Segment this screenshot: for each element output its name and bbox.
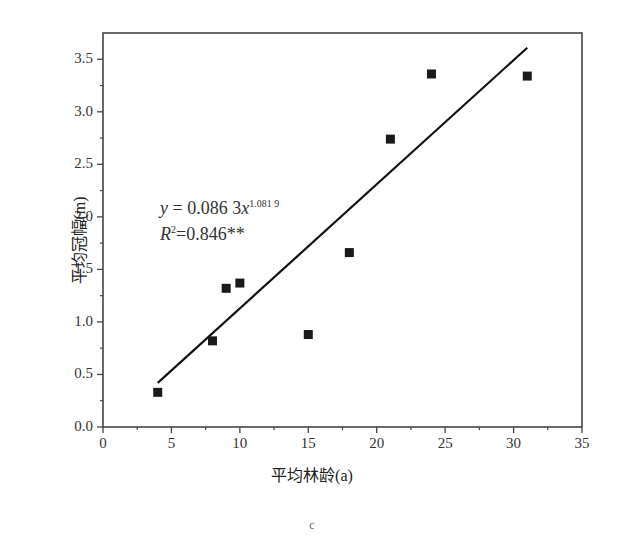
data-point-square [222,284,231,293]
y-tick-label: 0.5 [53,365,93,382]
data-point-square [304,330,313,339]
data-point-square [427,69,436,78]
x-tick-label: 20 [362,435,392,452]
equation-exponent: 1.081 9 [249,198,279,209]
y-tick-label: 3.5 [53,50,93,67]
r2-label: R [160,224,171,244]
r-squared: R2=0.846** [160,224,245,245]
r2-value: =0.846** [176,224,245,244]
x-axis-label: 平均林龄(a) [0,462,624,486]
axis-ticks [97,59,582,433]
data-point-square [208,336,217,345]
y-tick-label: 0.0 [53,418,93,435]
data-point-square [386,135,395,144]
x-tick-label: 35 [567,435,597,452]
x-tick-label: 30 [499,435,529,452]
y-tick-label: 1.0 [53,313,93,330]
y-axis-label: 平均冠幅(m) [66,180,90,300]
x-tick-label: 0 [88,435,118,452]
equation-y: y [160,198,168,218]
equation-x: x [241,198,249,218]
equation-body: = 0.086 3 [168,198,241,218]
data-point-square [153,388,162,397]
y-tick-label: 2.5 [53,155,93,172]
fit-equation: y = 0.086 3x1.081 9 [160,198,279,219]
data-point-square [345,248,354,257]
data-point-square [523,72,532,81]
x-tick-label: 15 [293,435,323,452]
x-tick-label: 5 [156,435,186,452]
x-tick-label: 25 [430,435,460,452]
data-point-square [235,279,244,288]
figure-caption: c [0,518,624,533]
y-tick-label: 3.0 [53,103,93,120]
x-tick-label: 10 [225,435,255,452]
